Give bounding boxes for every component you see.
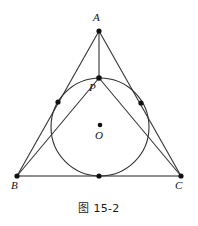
segment-cevian-BP (17, 78, 99, 176)
label-vertex-a: A (93, 12, 100, 23)
point-B (14, 173, 19, 178)
segment-cevian-CP (99, 78, 181, 176)
label-vertex-b: B (11, 180, 18, 191)
point-tangent-left (55, 99, 60, 104)
point-A (96, 28, 101, 33)
geometry-figure: A B C O P 图 15-2 (0, 0, 198, 226)
figure-caption: 图 15-2 (0, 199, 198, 215)
point-tangent-right (138, 100, 143, 105)
point-P (96, 75, 102, 81)
point-O-center (98, 123, 103, 128)
label-point-p: P (89, 82, 96, 93)
point-C (178, 173, 183, 178)
label-center-o: O (95, 130, 103, 141)
point-tangent-bottom (96, 173, 101, 178)
geometry-diagram (0, 0, 198, 226)
label-vertex-c: C (175, 180, 182, 191)
